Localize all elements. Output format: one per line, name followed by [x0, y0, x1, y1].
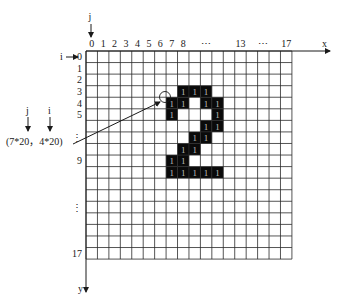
- coordinate-text: (7*20，4*20): [6, 136, 63, 148]
- pixel-value: 1: [170, 99, 175, 109]
- row-labels: 012345⋮9⋮17: [72, 51, 82, 259]
- pixel-value: 1: [192, 133, 197, 143]
- column-label: 3: [124, 38, 129, 49]
- pixel-value: 1: [204, 133, 209, 143]
- pixel-value: 1: [192, 87, 197, 97]
- pixel-value: 1: [204, 168, 209, 178]
- pixel-value: 1: [181, 156, 186, 166]
- y-axis-label: y: [78, 283, 83, 294]
- row-label: 4: [77, 98, 82, 109]
- column-label: 8: [181, 38, 186, 49]
- row-label: 2: [77, 74, 82, 85]
- row-label: 0: [77, 51, 82, 62]
- pixel-value: 1: [192, 145, 197, 155]
- j-marker-label: j: [25, 105, 29, 116]
- row-label: 5: [77, 109, 82, 120]
- pixel-value: 1: [204, 122, 209, 132]
- pixel-value: 1: [170, 156, 175, 166]
- column-label: 6: [158, 38, 163, 49]
- row-label: 17: [72, 248, 82, 259]
- pixel-value: 1: [215, 168, 220, 178]
- column-label: 13: [235, 38, 245, 49]
- column-label: ⋯: [201, 38, 211, 49]
- column-label: 1: [101, 38, 106, 49]
- pixel-value: 1: [204, 87, 209, 97]
- pixel-value: 1: [192, 168, 197, 178]
- column-labels: 012345678⋯13⋯17: [89, 38, 291, 49]
- row-label: 1: [77, 63, 82, 74]
- column-label: 7: [169, 38, 174, 49]
- column-label: 4: [135, 38, 140, 49]
- pixel-value: 1: [215, 99, 220, 109]
- column-label: 2: [112, 38, 117, 49]
- pixel-value: 1: [170, 110, 175, 120]
- pixel-value: 1: [215, 110, 220, 120]
- j-axis-label: j: [88, 11, 92, 22]
- column-label: 17: [281, 38, 291, 49]
- pixel-value: 1: [204, 99, 209, 109]
- pixel-value: 1: [215, 122, 220, 132]
- row-label: ⋮: [72, 202, 82, 213]
- pixel-grid-diagram: j i 012345678⋯13⋯17 012345⋮9⋮17 11111111…: [0, 0, 337, 302]
- pixel-value: 1: [170, 168, 175, 178]
- row-label: 3: [77, 86, 82, 97]
- grid-lines: [86, 51, 292, 259]
- pixel-value: 1: [181, 99, 186, 109]
- column-label: 5: [146, 38, 151, 49]
- column-label: ⋯: [258, 38, 268, 49]
- i-marker-label: i: [48, 105, 51, 116]
- pixel-value: 1: [181, 87, 186, 97]
- pixel-value: 1: [181, 168, 186, 178]
- x-axis-label: x: [322, 38, 327, 49]
- pixel-value: 1: [181, 145, 186, 155]
- column-label: 0: [89, 38, 94, 49]
- row-label: 9: [77, 155, 82, 166]
- i-axis-label: i: [60, 51, 63, 62]
